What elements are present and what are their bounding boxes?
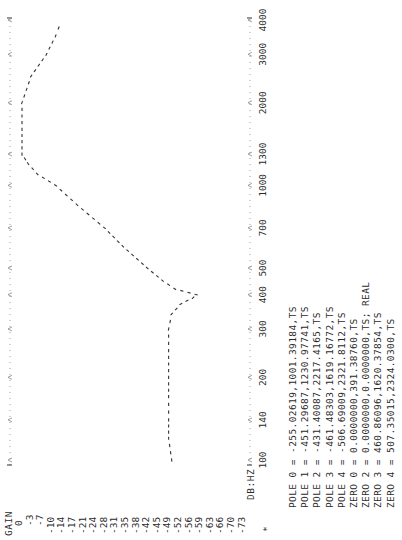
trace-dash <box>38 64 40 67</box>
trace-dash <box>76 204 78 206</box>
trace-dash <box>151 271 153 273</box>
freq-tick: 1300 <box>258 143 268 166</box>
trace-dash <box>179 303 182 304</box>
freq-tick-caret <box>248 183 252 187</box>
freq-tick: 1000 <box>258 174 268 197</box>
trace-dash <box>70 199 72 201</box>
freq-tick: 2000 <box>258 91 268 114</box>
trace-dash <box>113 236 115 238</box>
freq-tick-caret <box>8 418 12 422</box>
zero-line: ZERO 2 = 0.0000000,0.0000000,TS; REAL <box>361 282 371 508</box>
trace-dash <box>117 241 119 243</box>
trace-dash <box>60 189 62 191</box>
trace-dash <box>168 327 169 330</box>
trace-dash <box>192 297 194 299</box>
freq-tick-caret <box>8 52 12 56</box>
freq-tick-caret <box>248 375 252 379</box>
pole-line: POLE 3 = -461.48303,1619.16772,TS <box>325 306 335 508</box>
trace-dash <box>131 254 133 256</box>
freq-tick-caret <box>248 101 252 105</box>
trace-dash <box>58 26 59 29</box>
trace-dash <box>36 173 38 175</box>
marker-asterisk: * <box>262 526 272 532</box>
freq-tick-caret <box>248 226 252 230</box>
freq-tick: 700 <box>258 219 268 236</box>
freq-tick-caret <box>8 375 12 379</box>
freq-tick-caret <box>8 458 12 462</box>
trace-dash <box>136 258 138 260</box>
freq-tick-caret <box>8 183 12 187</box>
trace-dash <box>173 288 176 290</box>
trace-dash <box>87 213 89 215</box>
trace-dash <box>27 162 29 165</box>
pole-line: POLE 4 = -506.69009,2321.8112,TS <box>337 312 347 508</box>
rotated-plot-canvas: GAIN 0-3-7-10-14-17-21-24-28-31-35-38-42… <box>0 0 402 540</box>
freq-tick-caret <box>8 152 12 156</box>
x-axis-title: DB:HZ <box>246 469 256 500</box>
zero-line: ZERO 4 = 507.35015,2324.0300,TS <box>386 318 396 508</box>
freq-tick-caret <box>248 266 252 270</box>
freq-tick: 300 <box>258 320 268 337</box>
trace-dash <box>103 227 105 229</box>
freq-tick: 100 <box>258 451 268 468</box>
trace-dash <box>167 284 170 286</box>
trace-dash <box>81 208 83 210</box>
trace-dash <box>186 300 189 301</box>
trace-dash <box>98 222 100 224</box>
trace-dash <box>30 75 32 78</box>
freq-tick: 4000 <box>258 9 268 32</box>
trace-dash <box>34 69 36 72</box>
trace-dash <box>28 81 29 84</box>
trace-dash <box>161 280 163 282</box>
trace-dash <box>65 194 67 196</box>
trace-dash <box>48 181 51 183</box>
pole-line: POLE 1 = -451.29687,1230.97741,TS <box>300 306 310 508</box>
trace-dash <box>24 95 25 98</box>
trace-dash <box>171 313 173 315</box>
trace-dash <box>46 53 47 56</box>
trace-dash <box>49 47 50 50</box>
trace-dash <box>146 267 148 269</box>
freq-tick-caret <box>248 152 252 156</box>
trace-dash <box>170 320 171 323</box>
trace-dash <box>21 101 22 104</box>
freq-tick-caret <box>248 293 252 297</box>
trace-dash <box>156 275 158 277</box>
trace-dash <box>32 168 34 170</box>
pole-line: POLE 2 = -431.40087,2217.4165,TS <box>312 312 322 508</box>
trace-dash <box>195 294 198 295</box>
freq-tick-caret <box>8 327 12 331</box>
trace-dash <box>52 41 53 44</box>
trace-dash <box>92 218 94 220</box>
trace-dash <box>180 290 183 291</box>
freq-tick: 3000 <box>258 43 268 66</box>
trace-dash <box>54 185 57 187</box>
trace-dash <box>141 263 143 265</box>
trace-dash <box>108 231 110 233</box>
freq-tick: 140 <box>258 411 268 428</box>
freq-tick-caret <box>248 418 252 422</box>
trace-dash <box>175 308 177 310</box>
trace-dash <box>187 292 190 293</box>
pole-line: POLE 0 = -255.02619,1001.39184,TS <box>288 306 298 508</box>
freq-tick-caret <box>8 293 12 297</box>
freq-tick-caret <box>248 458 252 462</box>
trace-dash <box>127 250 129 252</box>
freq-tick-caret <box>248 52 252 56</box>
trace-dash <box>42 58 44 61</box>
freq-tick-caret <box>248 327 252 331</box>
freq-tick-caret <box>8 101 12 105</box>
printout-page: GAIN 0-3-7-10-14-17-21-24-28-31-35-38-42… <box>0 0 402 540</box>
trace-dash <box>26 88 27 91</box>
freq-tick-caret <box>8 266 12 270</box>
trace-dash <box>42 177 45 179</box>
zero-line: ZERO 0 = 0.0000000,391.38760,TS <box>349 318 359 508</box>
freq-tick: 400 <box>258 286 268 303</box>
zero-line: ZERO 3 = 460.86096,1620.37854,TS <box>373 312 383 508</box>
freq-tick-caret <box>8 226 12 230</box>
trace-dash <box>55 34 56 37</box>
trace-dash <box>24 157 26 160</box>
trace-dash <box>122 245 124 247</box>
freq-tick: 200 <box>258 369 268 386</box>
freq-tick: 500 <box>258 259 268 276</box>
